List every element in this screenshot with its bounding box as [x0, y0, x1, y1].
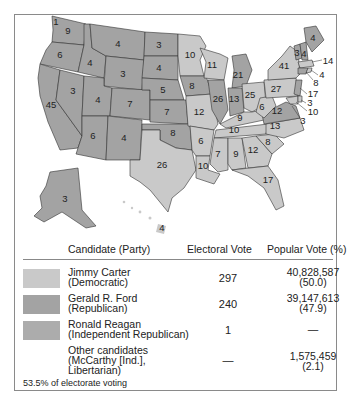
popular-percent: (47.9) [278, 303, 348, 313]
svg-text:26: 26 [157, 159, 168, 170]
header-divider [23, 259, 333, 260]
popular-percent: (50.0) [278, 277, 348, 287]
svg-text:25: 25 [245, 89, 256, 100]
header-electoral-vote: Electoral Vote [187, 243, 252, 255]
candidate-party-cont: Libertarian) [68, 365, 148, 375]
svg-text:4: 4 [156, 62, 161, 73]
svg-text:6: 6 [198, 135, 203, 146]
svg-text:4: 4 [159, 222, 164, 233]
svg-text:8: 8 [189, 80, 194, 91]
svg-text:13: 13 [229, 93, 240, 104]
electoral-vote: — [208, 354, 248, 366]
svg-text:3: 3 [70, 85, 75, 96]
svg-text:11: 11 [207, 59, 217, 70]
svg-text:9: 9 [233, 148, 238, 159]
state-ia [180, 76, 212, 96]
swatch-carter [23, 269, 60, 288]
svg-text:4: 4 [87, 57, 92, 68]
svg-text:27: 27 [271, 83, 282, 94]
state-fl [232, 166, 284, 210]
electoral-vote: 240 [208, 298, 248, 310]
candidate-party: (Republican) [68, 303, 137, 313]
svg-text:3: 3 [120, 68, 125, 79]
svg-text:4: 4 [319, 69, 324, 80]
svg-text:4: 4 [115, 38, 120, 49]
state-de [298, 96, 302, 102]
candidate-party: (Democratic) [68, 277, 130, 287]
svg-text:5: 5 [160, 84, 165, 95]
swatch-reagan [23, 321, 60, 340]
svg-text:4: 4 [95, 94, 100, 105]
svg-text:45: 45 [46, 99, 57, 110]
svg-text:10: 10 [185, 49, 196, 60]
candidate-party: (Independent Republican) [68, 329, 189, 339]
popular-vote: — [278, 324, 348, 334]
svg-text:7: 7 [164, 106, 169, 117]
svg-text:17: 17 [263, 174, 274, 185]
svg-text:3: 3 [156, 39, 161, 50]
svg-text:12: 12 [248, 144, 259, 155]
header-candidate: Candidate (Party) [68, 243, 150, 255]
popular-vote-cell: 39,147,613 (47.9) [278, 293, 348, 313]
svg-text:10: 10 [229, 124, 240, 135]
header-popular-vote: Popular Vote (%) [267, 243, 346, 255]
svg-text:41: 41 [279, 60, 290, 71]
svg-text:6: 6 [259, 101, 264, 112]
svg-text:7: 7 [215, 148, 220, 159]
svg-text:3: 3 [62, 193, 67, 204]
svg-text:6: 6 [90, 130, 95, 141]
svg-text:8: 8 [313, 77, 318, 88]
svg-text:8: 8 [265, 136, 270, 147]
svg-text:21: 21 [233, 69, 244, 80]
swatch-ford [23, 295, 60, 314]
us-election-map: 1 9 6 45 4 3 4 3 4 7 6 4 3 4 5 7 8 26 10… [0, 0, 353, 240]
svg-text:13: 13 [270, 120, 281, 131]
svg-text:12: 12 [272, 105, 283, 116]
candidate-cell: Other candidates (McCarthy [Ind.], Liber… [68, 345, 148, 375]
state-ma [298, 60, 314, 68]
electoral-vote: 297 [208, 272, 248, 284]
candidate-cell: Gerald R. Ford (Republican) [68, 293, 137, 313]
svg-text:6: 6 [57, 49, 62, 60]
svg-text:10: 10 [308, 106, 319, 117]
svg-text:9: 9 [65, 25, 70, 36]
svg-text:9: 9 [237, 112, 242, 123]
svg-text:3: 3 [300, 115, 305, 126]
candidate-cell: Ronald Reagan (Independent Republican) [68, 319, 189, 339]
popular-vote-cell: 1,575,459 (2.1) [278, 351, 348, 371]
svg-text:1: 1 [53, 16, 58, 27]
table-row-others: Other candidates (McCarthy [Ind.], Liber… [23, 345, 333, 381]
svg-text:14: 14 [323, 55, 334, 66]
turnout-footnote: 53.5% of electorate voting [23, 378, 127, 388]
svg-text:10: 10 [198, 160, 209, 171]
svg-text:26: 26 [213, 93, 224, 104]
svg-text:4: 4 [301, 48, 306, 59]
electoral-vote: 1 [208, 324, 248, 336]
popular-vote-cell: 40,828,587 (50.0) [278, 267, 348, 287]
svg-text:4: 4 [121, 132, 126, 143]
svg-text:8: 8 [170, 127, 175, 138]
svg-text:7: 7 [127, 98, 132, 109]
svg-text:12: 12 [194, 106, 205, 117]
candidate-cell: Jimmy Carter (Democratic) [68, 267, 130, 287]
popular-percent: (2.1) [278, 361, 348, 371]
svg-text:4: 4 [310, 32, 315, 43]
svg-text:3: 3 [294, 47, 299, 58]
